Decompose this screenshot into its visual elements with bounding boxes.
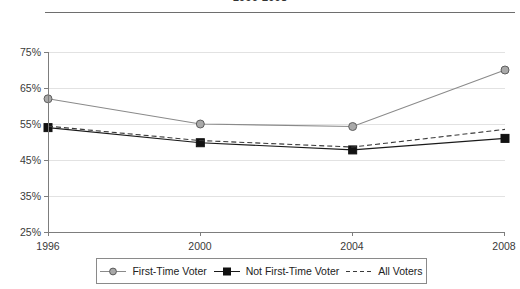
ytick-label-55: 55% bbox=[20, 118, 41, 130]
series-line-0 bbox=[48, 70, 505, 127]
title-divider bbox=[45, 12, 515, 13]
ytick-label-65: 65% bbox=[20, 82, 41, 94]
legend-label: All Voters bbox=[378, 266, 422, 277]
data-point-marker bbox=[349, 123, 357, 131]
chart-page: 1996-2008 75% 65% 55% 45% 35% 25% 1996 2… bbox=[0, 0, 520, 289]
xtick-label-2000: 2000 bbox=[188, 240, 211, 252]
data-point-marker bbox=[196, 139, 204, 147]
xtick-2008 bbox=[504, 232, 505, 236]
xtick-2000 bbox=[200, 232, 201, 236]
legend-label: Not First-Time Voter bbox=[246, 266, 340, 277]
ytick-label-75: 75% bbox=[20, 46, 41, 58]
series-line-1 bbox=[48, 128, 505, 150]
data-point-marker bbox=[196, 120, 204, 128]
data-point-marker bbox=[501, 134, 509, 142]
data-point-marker bbox=[501, 66, 509, 74]
plot-area: 75% 65% 55% 45% 35% 25% bbox=[48, 52, 505, 232]
square-marker-line-icon bbox=[214, 266, 240, 277]
xtick-1996 bbox=[48, 232, 49, 236]
legend-item-not-first-time-voter: Not First-Time Voter bbox=[214, 266, 340, 277]
ytick-label-35: 35% bbox=[20, 190, 41, 202]
xtick-label-2008: 2008 bbox=[492, 240, 515, 252]
xtick-label-1996: 1996 bbox=[36, 240, 59, 252]
x-axis-labels: 1996 2000 2004 2008 bbox=[48, 232, 505, 256]
dashed-line-icon bbox=[346, 266, 372, 277]
series-layer bbox=[48, 52, 505, 232]
chart-title: 1996-2008 bbox=[0, 0, 520, 3]
chart-legend: First-Time Voter Not First-Time Voter Al… bbox=[96, 258, 427, 284]
ytick-label-45: 45% bbox=[20, 154, 41, 166]
legend-label: First-Time Voter bbox=[132, 266, 206, 277]
y-axis bbox=[48, 52, 49, 233]
circle-marker-line-icon bbox=[100, 266, 126, 277]
legend-item-first-time-voter: First-Time Voter bbox=[100, 266, 206, 277]
xtick-2004 bbox=[352, 232, 353, 236]
legend-item-all-voters: All Voters bbox=[346, 266, 422, 277]
xtick-label-2004: 2004 bbox=[340, 240, 363, 252]
ytick-label-25: 25% bbox=[20, 226, 41, 238]
